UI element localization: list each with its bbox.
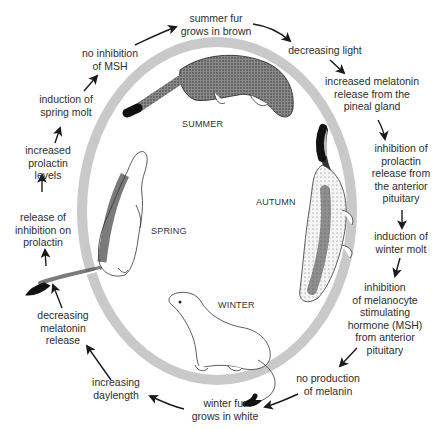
step-decreasing-light: decreasing light <box>288 44 362 57</box>
season-label-autumn: AUTUMN <box>256 197 296 207</box>
arrow-light-to-melatonin <box>330 60 344 73</box>
arrow-winter-fur-to-daylength <box>150 396 184 409</box>
arrow-no-inhibition-to-summer-fur <box>84 76 97 91</box>
arrow-daylength-to-melatonin <box>87 346 111 380</box>
step-increased-prolactin: increased prolactin levels <box>25 144 71 182</box>
arrow-msh-to-summer-fur <box>135 27 176 45</box>
arrow-winter-molt-to-msh <box>395 258 400 276</box>
step-increased-melatonin: increased melatonin release from the pin… <box>325 75 419 113</box>
arrow-summer-fur-to-decreasing-light <box>253 24 290 41</box>
step-winter-molt: induction of winter molt <box>374 230 428 255</box>
arrow-no-melanin-to-winter-fur <box>265 394 298 407</box>
season-label-winter: WINTER <box>218 300 255 310</box>
step-no-inhibition-msh: no inhibition of MSH <box>82 47 138 72</box>
arrow-spring-molt-to-no-inhibition <box>55 128 60 143</box>
step-no-melanin: no production of melanin <box>296 372 360 397</box>
step-spring-molt: induction of spring molt <box>39 93 93 118</box>
season-label-spring: SPRING <box>151 226 187 236</box>
step-summer-fur: summer fur grows in brown <box>181 12 252 37</box>
step-inhibition-prolactin: inhibition of prolactin release from the… <box>372 142 430 205</box>
step-winter-fur: winter fur grows in white <box>192 397 259 422</box>
arrow-melatonin-to-release <box>53 285 62 308</box>
arrow-release-to-prolactin <box>45 250 46 266</box>
step-decreasing-melatonin: decreasing melatonin release <box>37 309 88 347</box>
step-release-inhibition: release of inhibition on prolactin <box>15 211 71 249</box>
arrow-melatonin-to-prolactin <box>378 120 385 139</box>
step-increasing-daylength: increasing daylength <box>92 376 140 401</box>
step-inhibition-msh: inhibition of melanocyte stimulating hor… <box>348 281 423 356</box>
season-label-summer: SUMMER <box>182 119 223 129</box>
